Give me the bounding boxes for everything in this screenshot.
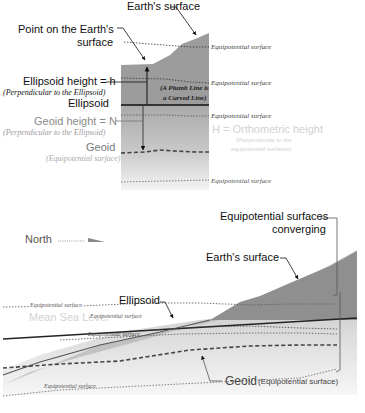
- bottom-equipotential-label-2: Equipotential surface: [90, 313, 142, 319]
- ellipsoid-height-label: Ellipsoid height = h: [23, 75, 116, 87]
- point-label-line2: surface: [77, 36, 113, 48]
- bottom-earths-surface-label: Earth's surface: [206, 251, 279, 263]
- plumb-line-note-1: (A Plumb Line is: [160, 84, 209, 92]
- geoid-height-label: Geoid height = N: [34, 115, 117, 127]
- bottom-ellipsoid-label: Ellipsoid: [119, 294, 160, 306]
- orthometric-note-1: (Perpendicular to the: [236, 137, 292, 143]
- geoid-note: (Equipotential surface): [46, 154, 120, 163]
- bottom-equipotential-label-3: Equipotential surface: [88, 331, 140, 337]
- orthometric-height-label: H = Orthometric height: [212, 123, 323, 135]
- equipotential-label-2: Equipotential surface: [211, 79, 271, 87]
- point-label-line1: Point on the Earth's: [18, 23, 114, 35]
- earths-surface-label: Earth's surface: [127, 0, 200, 12]
- equipotential-label-3: Equipotential surface: [211, 112, 271, 120]
- bottom-equipotential-label-4: Equipotential surface: [44, 383, 96, 389]
- geoid-diagram-graphics: [0, 0, 365, 413]
- bottom-geoid-note: (Equipotential surface): [258, 377, 338, 386]
- ellipsoid-label: Ellipsoid: [68, 97, 109, 109]
- bottom-geoid-label: Geoid: [225, 374, 257, 388]
- equipotential-label-4: Equipotential surface: [211, 177, 271, 185]
- orthometric-note-2: equipotential surfaces): [231, 146, 291, 152]
- converging-label-1: Equipotential surfaces: [220, 210, 328, 222]
- converging-label-2: converging: [272, 223, 326, 235]
- bottom-equipotential-label-1: Equipotential surface: [30, 302, 82, 308]
- north-label: North: [25, 233, 52, 245]
- geoid-height-note: (Perpendicular to the Ellipsoid): [3, 128, 105, 137]
- plumb-line-note-2: a Curved Line): [163, 94, 207, 102]
- ellipsoid-height-note: (Perpendicular to the Ellipsoid): [3, 88, 105, 97]
- north-arrow-icon: [88, 238, 105, 242]
- equipotential-label-1: Equipotential surface: [211, 43, 271, 51]
- geoid-label: Geoid: [86, 141, 115, 153]
